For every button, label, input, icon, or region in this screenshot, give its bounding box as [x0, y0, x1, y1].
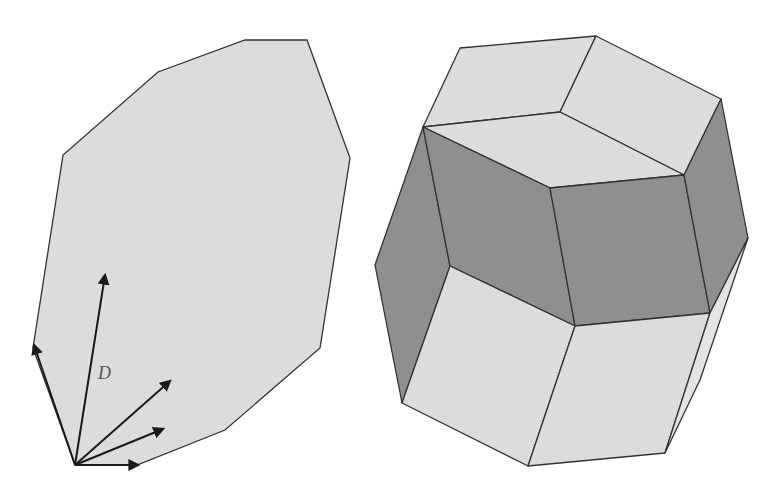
zonogon: D [33, 40, 350, 465]
zonohedron [375, 36, 748, 466]
figure-canvas: D [0, 0, 775, 494]
vector-label-d: D [97, 363, 111, 383]
zonogon-polygon [33, 40, 350, 465]
face-dark-center [550, 175, 710, 326]
